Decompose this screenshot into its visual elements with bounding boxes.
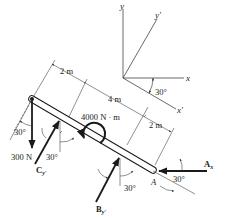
reaction-c-label: Cy'	[36, 165, 47, 176]
axes-angle-label: 30°	[155, 87, 167, 97]
reaction-a: A 30° Ax	[150, 159, 213, 194]
x-prime-axis-label: x'	[176, 105, 184, 115]
angle-b-label: 30°	[124, 183, 136, 193]
coordinate-axes: y x y' x' 30°	[119, 1, 190, 115]
angle-300n-label: 30°	[14, 127, 26, 137]
dimension-left-2m: 2 m	[60, 66, 73, 76]
dimension-middle-4m: 4 m	[108, 94, 121, 104]
force-300n: 30° 300 N	[11, 99, 32, 162]
angle-a-label: 30°	[173, 174, 185, 184]
reaction-a-label: Ax	[204, 159, 213, 170]
y-axis-label: y	[119, 1, 124, 11]
reaction-c: 30° Cy'	[35, 121, 74, 176]
force-300n-label: 300 N	[11, 152, 32, 162]
angle-c-label: 30°	[46, 152, 58, 162]
reaction-b: 30° By'	[96, 158, 136, 215]
y-prime-axis-label: y'	[154, 10, 162, 20]
axes-angle-arc	[149, 78, 153, 93]
dimension-right-2m: 2 m	[149, 120, 162, 130]
y-prime-axis	[123, 19, 157, 78]
free-body-diagram: y x y' x' 30° 2 m 4 m 2 m 4000 N · m 30°	[0, 0, 225, 218]
reaction-b-label: By'	[96, 204, 106, 215]
moment-label: 4000 N · m	[81, 112, 120, 122]
point-a-label: A	[150, 177, 157, 187]
x-axis-label: x	[185, 73, 190, 83]
x-prime-axis	[123, 78, 176, 109]
